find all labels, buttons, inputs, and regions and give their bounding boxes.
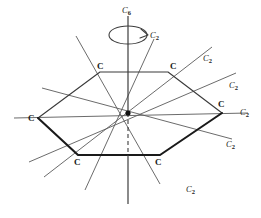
atom-label-lower-right: C: [155, 158, 162, 167]
c2-label-subscript-3: 2: [246, 111, 249, 118]
principal-c6-axis-group: [109, 16, 148, 204]
c2-label-subscript-2: 2: [235, 84, 238, 91]
ring-bonds-back: [38, 72, 222, 118]
c2-label-letter-0: C: [150, 30, 156, 40]
c6-axis-label-subscript: 6: [128, 9, 131, 16]
ring-bonds-front: [38, 113, 222, 155]
c2-axis-label-mid-right: C2: [229, 81, 238, 90]
c2-label-subscript-1: 2: [209, 57, 212, 64]
c2-label-subscript-5: 2: [192, 188, 195, 195]
c2-axis-label-upper-right: C2: [203, 54, 212, 63]
atom-label-upper-left: C: [97, 62, 104, 71]
axes-intersection-point: [125, 110, 130, 115]
symmetry-diagram-figure: C6 C C C C C C C2 C2 C2 C2 C2 C2: [0, 0, 261, 218]
c2-axis-steep-lower-line: [76, 36, 160, 184]
c2-label-letter-3: C: [240, 107, 246, 117]
c2-axis-lower-right-line: [42, 88, 232, 139]
c2-axis-label-lower-right: C2: [226, 140, 235, 149]
symmetry-diagram-canvas: [0, 0, 261, 218]
c2-label-letter-2: C: [229, 80, 235, 90]
atom-label-lower-left: C: [74, 158, 81, 167]
c2-axis-label-horizontal: C2: [240, 108, 249, 117]
c2-label-letter-5: C: [186, 184, 192, 194]
atom-label-upper-right: C: [170, 62, 177, 71]
c2-axis-group: [14, 36, 248, 190]
c2-label-letter-1: C: [203, 53, 209, 63]
c2-axis-steep-right-line: [85, 39, 154, 190]
c2-axis-horizontal-line: [14, 113, 248, 118]
c2-label-subscript-4: 2: [232, 143, 235, 150]
c2-label-letter-4: C: [226, 139, 232, 149]
atom-label-left: C: [28, 114, 35, 123]
c2-axis-label-steep-right: C2: [150, 31, 159, 40]
atom-label-right: C: [218, 100, 225, 109]
c2-label-subscript-0: 2: [156, 34, 159, 41]
c6-axis-label-letter: C: [122, 5, 128, 15]
c2-axis-label-steep-lower: C2: [186, 185, 195, 194]
c6-axis-label: C6: [122, 6, 131, 15]
